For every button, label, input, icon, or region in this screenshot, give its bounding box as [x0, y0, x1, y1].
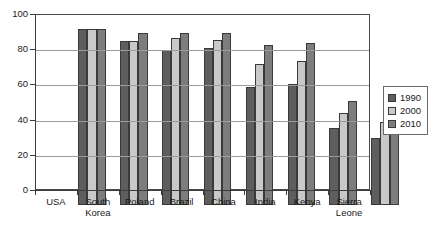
y-axis-tick-label: 100: [2, 9, 28, 19]
x-axis-tick: [286, 191, 287, 195]
figure-caption: [8, 226, 428, 235]
gridline: [36, 50, 369, 51]
x-axis-tick: [203, 191, 204, 195]
bar-1990-poland: [162, 50, 171, 205]
legend-item-2010: 2010: [388, 117, 421, 130]
y-axis-tick: [30, 14, 35, 15]
gridline: [36, 121, 369, 122]
y-axis-tick-label: 60: [2, 79, 28, 89]
bar-1990-kenya: [329, 128, 338, 205]
x-axis-tick: [370, 191, 371, 195]
bar-2010-china: [264, 45, 273, 205]
gridline: [36, 156, 369, 157]
y-axis-tick-label: 80: [2, 44, 28, 54]
y-axis-tick-label: 0: [2, 185, 28, 195]
legend-swatch-2000-icon: [388, 107, 396, 115]
y-axis-labels: 020406080100: [0, 0, 28, 235]
bar-2010-south-korea: [138, 33, 147, 205]
y-axis-line: [35, 14, 36, 191]
bar-2000-south-korea: [129, 41, 138, 205]
gridline: [36, 85, 369, 86]
plot-area: [35, 14, 370, 190]
y-axis-tick: [30, 49, 35, 50]
bar-1990-india: [288, 84, 297, 205]
bar-1990-brazil: [204, 48, 213, 205]
bar-2010-usa: [97, 29, 106, 205]
y-axis-tick: [30, 120, 35, 121]
bars-layer: [71, 29, 406, 205]
x-axis-tick: [244, 191, 245, 195]
y-axis-tick: [30, 155, 35, 156]
bar-1990-sierra-leone: [371, 138, 380, 205]
y-axis-tick-label: 20: [2, 150, 28, 160]
y-axis-tick: [30, 84, 35, 85]
x-axis-tick: [35, 191, 36, 195]
legend-swatch-1990-icon: [388, 94, 396, 102]
bar-2000-india: [297, 61, 306, 205]
bar-1990-south-korea: [120, 41, 129, 205]
legend-label-2000: 2000: [400, 106, 421, 116]
x-axis-tick: [161, 191, 162, 195]
bar-2000-usa: [87, 29, 96, 205]
x-axis-label-sierra-leone: Sierra Leone: [322, 196, 376, 218]
bar-2000-brazil: [213, 40, 222, 205]
legend-label-2010: 2010: [400, 119, 421, 129]
bar-2010-poland: [180, 33, 189, 205]
legend-item-1990: 1990: [388, 91, 421, 104]
bar-chart: 020406080100 USASouth KoreaPolandBrazilC…: [0, 0, 437, 235]
y-axis-tick-label: 40: [2, 115, 28, 125]
bar-2010-brazil: [222, 33, 231, 205]
bar-2000-kenya: [339, 113, 348, 205]
x-axis-tick: [328, 191, 329, 195]
x-axis-tick: [119, 191, 120, 195]
legend-swatch-2010-icon: [388, 120, 396, 128]
bar-1990-usa: [78, 29, 87, 205]
x-axis-tick: [77, 191, 78, 195]
chart-legend: 1990 2000 2010: [383, 86, 428, 135]
legend-item-2000: 2000: [388, 104, 421, 117]
bar-1990-china: [246, 87, 255, 205]
bar-2010-india: [306, 43, 315, 205]
legend-label-1990: 1990: [400, 93, 421, 103]
